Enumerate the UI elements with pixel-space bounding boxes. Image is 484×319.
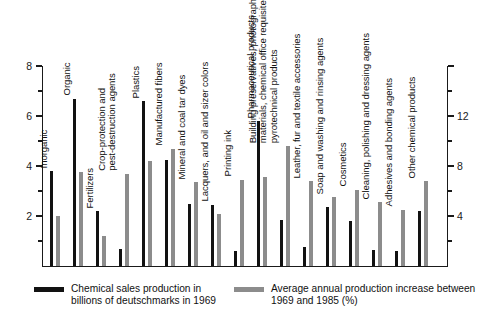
category-label-17: Other chemical products <box>407 0 417 178</box>
y-axis-right-tick <box>448 165 454 166</box>
bar-sales-1 <box>50 171 53 266</box>
category-label-3: Fertilizers <box>85 8 95 208</box>
bar-increase-2 <box>79 172 82 266</box>
legend-swatch-black-icon <box>34 287 64 293</box>
bar-increase-6 <box>171 149 174 267</box>
category-label-12: Leather, fur and textile accessories <box>292 0 302 178</box>
bar-sales-9 <box>234 251 237 266</box>
category-label-line: pest-destruction agents <box>108 0 118 171</box>
bar-increase-16 <box>401 210 404 266</box>
category-label-11: Building preservatives, photographicmate… <box>248 0 279 143</box>
category-label-line: Leather, fur and textile accessories <box>292 0 302 178</box>
bar-increase-4 <box>125 174 128 267</box>
y-axis-right-tick <box>448 140 452 141</box>
y-axis-left-tick-label: 2 <box>8 210 32 222</box>
category-label-line: Soap and washing and rinsing agents <box>315 0 325 194</box>
legend-label-sales-line2: billions of deutschmarks in 1969 <box>71 295 216 307</box>
y-axis-left-tick-label: 8 <box>8 60 32 72</box>
category-label-line: Cleaning, polishing and dressing agents <box>361 0 371 199</box>
legend-label-increase-line2: 1969 and 1985 (%) <box>271 295 475 307</box>
category-label-line: Inorganic <box>39 0 49 168</box>
category-label-line: pyrotechnical products <box>269 0 279 143</box>
category-label-line: Adhesives and bonding agents <box>384 7 394 207</box>
bar-sales-6 <box>165 160 168 266</box>
bar-sales-13 <box>326 207 329 266</box>
category-label-9: Printing ink <box>223 0 233 177</box>
bar-increase-3 <box>102 236 105 266</box>
bar-sales-12 <box>303 247 306 266</box>
bar-sales-5 <box>142 101 145 266</box>
category-label-6: Manufactured fibers <box>154 0 164 146</box>
category-label-13: Soap and washing and rinsing agents <box>315 0 325 194</box>
category-label-7: Mineral and coal tar dyes <box>177 0 187 179</box>
legend-item-sales: Chemical sales production in billions of… <box>34 283 216 306</box>
category-label-line: Cosmetics <box>338 0 348 187</box>
chart-legend: Chemical sales production in billions of… <box>34 283 474 317</box>
bar-sales-16 <box>395 251 398 266</box>
bar-increase-5 <box>148 161 151 266</box>
bar-sales-2 <box>73 99 76 267</box>
bar-sales-15 <box>372 250 375 266</box>
legend-label-sales-line1: Chemical sales production in <box>71 283 216 295</box>
category-label-line: Printing ink <box>223 0 233 177</box>
bar-increase-17 <box>424 181 427 266</box>
bar-increase-12 <box>309 181 312 266</box>
category-label-4: Crop-protection andpest-destruction agen… <box>97 0 118 171</box>
category-label-line: Fertilizers <box>85 8 95 208</box>
bar-increase-13 <box>332 197 335 266</box>
y-axis-left-tick-label: 6 <box>8 110 32 122</box>
y-axis-right-tick <box>448 65 454 66</box>
bar-increase-14 <box>355 190 358 266</box>
legend-label-sales: Chemical sales production in billions of… <box>71 283 216 306</box>
bar-increase-7 <box>194 182 197 266</box>
legend-swatch-gray-icon <box>234 287 264 293</box>
legend-item-increase: Average annual production increase betwe… <box>234 283 475 306</box>
bar-increase-15 <box>378 202 381 266</box>
y-axis-right-tick <box>448 240 452 241</box>
legend-label-increase: Average annual production increase betwe… <box>271 283 475 306</box>
category-label-line: Lacquers, and oil and sizer colors <box>200 2 210 202</box>
bar-increase-1 <box>56 216 59 266</box>
category-label-line: Organic <box>62 0 72 96</box>
y-axis-right-tick-label: 12 <box>457 110 469 122</box>
category-label-8: Lacquers, and oil and sizer colors <box>200 2 210 202</box>
bar-sales-14 <box>349 221 352 266</box>
category-label-line: Other chemical products <box>407 0 417 178</box>
y-axis-right-tick <box>448 190 452 191</box>
bar-sales-11 <box>280 220 283 266</box>
y-axis-right-tick-label: 4 <box>457 210 463 222</box>
category-label-14: Cosmetics <box>338 0 348 187</box>
category-label-16: Adhesives and bonding agents <box>384 7 394 207</box>
category-label-line: Mineral and coal tar dyes <box>177 0 187 179</box>
chart-container: 2468 4812 InorganicOrganicFertilizersCro… <box>0 0 484 319</box>
x-axis-baseline <box>42 266 448 267</box>
category-label-line: Plastics <box>131 0 141 98</box>
y-axis-right-tick-label: 8 <box>457 160 463 172</box>
y-axis-right-tick <box>448 90 452 91</box>
y-axis-right-tick <box>448 215 454 216</box>
category-label-15: Cleaning, polishing and dressing agents <box>361 0 371 199</box>
category-label-line: Manufactured fibers <box>154 0 164 146</box>
category-label-2: Organic <box>62 0 72 96</box>
category-label-1: Inorganic <box>39 0 49 168</box>
bar-sales-17 <box>418 211 421 266</box>
bar-increase-8 <box>217 214 220 267</box>
bar-sales-4 <box>119 249 122 267</box>
bar-sales-8 <box>211 205 214 266</box>
bar-sales-3 <box>96 211 99 266</box>
legend-label-increase-line1: Average annual production increase betwe… <box>271 283 475 295</box>
bar-increase-10 <box>263 177 266 266</box>
bar-sales-7 <box>188 204 191 267</box>
y-axis-right-tick <box>448 115 454 116</box>
bar-increase-9 <box>240 180 243 266</box>
category-label-5: Plastics <box>131 0 141 98</box>
bar-increase-11 <box>286 146 289 266</box>
plot-area: InorganicOrganicFertilizersCrop-protecti… <box>42 66 448 266</box>
y-axis-left-tick-label: 4 <box>8 160 32 172</box>
